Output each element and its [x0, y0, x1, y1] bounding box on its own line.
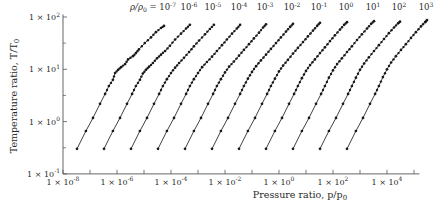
series-label: 10-1 [311, 1, 328, 13]
data-point [276, 74, 278, 76]
data-point [324, 85, 327, 88]
data-point [152, 62, 155, 65]
data-point [231, 32, 234, 35]
data-point [331, 37, 333, 39]
data-point [85, 130, 88, 133]
data-point [211, 55, 214, 58]
data-point [112, 130, 115, 133]
data-point [131, 93, 134, 96]
data-point [239, 93, 242, 96]
data-point [380, 41, 382, 43]
data-point [185, 54, 187, 56]
data-point [185, 27, 188, 30]
data-point [253, 68, 255, 70]
data-point [238, 54, 241, 57]
data-point [245, 81, 247, 83]
data-point [353, 81, 355, 83]
data-point [245, 46, 247, 48]
data-point [346, 147, 349, 150]
data-point [220, 130, 223, 133]
x-tick-label: 1 × 10-6 [101, 175, 134, 187]
data-point [240, 52, 242, 54]
data-point [343, 54, 345, 56]
data-point [314, 27, 316, 29]
data-point [301, 130, 304, 133]
data-point [164, 81, 166, 83]
data-point [113, 75, 115, 77]
data-point [374, 93, 377, 96]
data-point [211, 26, 213, 28]
data-point [139, 78, 142, 81]
series-line [104, 25, 190, 149]
data-point [347, 93, 350, 96]
data-point [395, 55, 398, 58]
data-point [160, 89, 162, 91]
data-point [156, 57, 159, 60]
data-point [311, 61, 313, 63]
data-point [385, 35, 387, 37]
data-point [412, 34, 414, 36]
series-label: 10-4 [231, 1, 248, 13]
data-point [297, 47, 300, 50]
y-tick-label: 1 × 102 [29, 11, 60, 23]
series-curves [76, 19, 429, 150]
data-point [272, 81, 274, 83]
data-point [346, 51, 349, 54]
data-point [233, 60, 236, 63]
data-point [200, 117, 203, 120]
data-point [369, 102, 372, 105]
series-line [320, 22, 400, 149]
data-point [277, 39, 279, 41]
data-point [287, 59, 290, 62]
data-point [249, 74, 251, 76]
data-point [206, 30, 208, 32]
data-point [226, 38, 229, 41]
data-point [173, 117, 176, 120]
data-point [127, 58, 130, 61]
data-point [268, 89, 270, 91]
data-point [150, 36, 153, 39]
data-point [319, 21, 322, 24]
data-point [185, 93, 188, 96]
data-point [226, 68, 228, 70]
data-point [420, 25, 423, 28]
data-point [195, 42, 197, 44]
data-point [154, 60, 156, 62]
data-point [267, 51, 269, 53]
data-point [270, 85, 273, 88]
data-point [299, 44, 301, 46]
data-point [238, 147, 241, 150]
data-point [265, 23, 268, 26]
data-point [292, 52, 295, 55]
data-point [373, 20, 376, 23]
data-point [380, 80, 382, 82]
data-point [216, 85, 219, 88]
data-point [426, 19, 429, 22]
data-point [235, 57, 237, 59]
data-point [214, 89, 216, 91]
data-point [124, 63, 127, 66]
data-point [274, 130, 277, 133]
data-point [164, 50, 167, 53]
data-point [208, 58, 210, 60]
data-point [295, 89, 297, 91]
data-point [166, 47, 168, 49]
y-tick-label: 1 × 101 [29, 63, 60, 75]
data-point [358, 36, 360, 38]
data-point [376, 89, 378, 91]
x-tick-label: 1 × 102 [318, 175, 349, 187]
data-point [125, 61, 127, 63]
data-point [243, 85, 246, 88]
data-point [341, 57, 344, 60]
x-tick-label: 1 × 10-8 [47, 175, 80, 187]
data-point [230, 63, 232, 65]
data-point [223, 41, 225, 43]
series-label: 10-6 [181, 1, 198, 13]
data-point [304, 38, 306, 40]
data-point [326, 43, 328, 45]
data-point [218, 81, 220, 83]
data-point [191, 81, 193, 83]
data-point [234, 102, 237, 105]
data-point [284, 62, 286, 64]
data-point [390, 29, 392, 31]
